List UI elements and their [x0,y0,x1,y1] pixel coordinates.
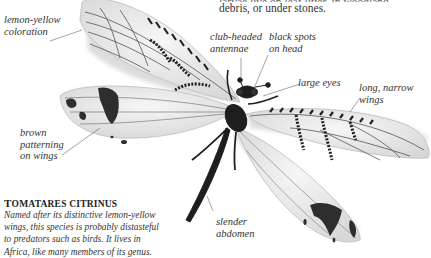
label-large-eyes: large eyes [298,77,340,89]
label-black-spots-on-head: black spots on head [269,31,316,54]
species-description: Named after its distinctive lemon-yellow… [4,209,214,258]
label-brown-patterning-on-wings: brown patterning on wings [20,127,64,162]
species-caption: TOMATARES CITRINUS Named after its disti… [4,197,214,258]
label-lemon-yellow-coloration: lemon-yellow coloration [4,14,61,37]
label-long-narrow-wings: long, narrow wings [359,82,413,105]
label-club-headed-antennae: club-headed antennae [210,31,262,54]
label-slender-abdomen: slender abdomen [216,216,255,239]
species-title: TOMATARES CITRINUS [4,197,214,209]
